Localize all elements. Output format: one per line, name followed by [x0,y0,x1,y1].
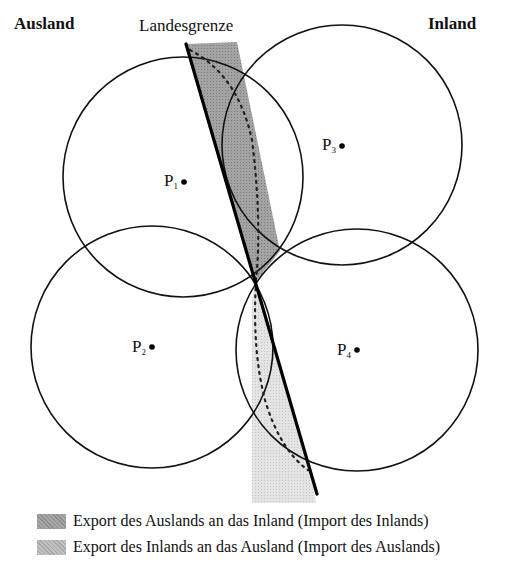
point-label-p1: P1 [164,171,178,191]
legend-swatch-dark [37,514,66,529]
dark-import-region [186,42,280,281]
point-p1-dot [181,179,187,185]
point-label-p4: P4 [337,340,351,360]
point-p3-dot [339,143,345,149]
diagram-canvas [0,0,514,572]
region-label-domestic: Inland [428,14,476,34]
region-label-foreign: Ausland [14,14,74,34]
legend-label-light: Export des Inlands an das Ausland (Impor… [73,538,440,556]
point-label-p2: P2 [132,337,146,357]
legend-swatch-light [37,540,66,555]
legend-item-import-inland: Export des Auslands an das Inland (Impor… [37,512,428,530]
point-p2-dot [149,344,155,350]
border-label: Landesgrenze [139,16,233,36]
point-label-p3: P3 [322,135,336,155]
national-border-line [186,44,317,494]
point-p4-dot [354,347,360,353]
legend-item-import-ausland: Export des Inlands an das Ausland (Impor… [37,538,440,556]
light-export-region [252,281,316,503]
legend-label-dark: Export des Auslands an das Inland (Impor… [73,512,428,530]
